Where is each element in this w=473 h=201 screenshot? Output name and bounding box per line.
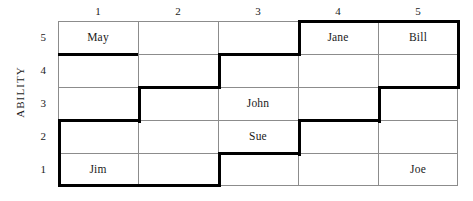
- column-header-4: 4: [298, 5, 378, 17]
- cell-r5-c1: May: [58, 21, 138, 54]
- cell-r2-c3: Sue: [218, 120, 298, 153]
- row-header-5: 5: [28, 21, 46, 54]
- row-header-1: 1: [28, 153, 46, 186]
- row-header-2: 2: [28, 120, 46, 153]
- grid-plot-area: May Jane Bill John Sue Jim Joe: [58, 21, 458, 186]
- boundary-under-r5c3: [218, 53, 301, 56]
- row-header-3: 3: [28, 87, 46, 120]
- cell-r5-c5: Bill: [378, 21, 458, 54]
- cell-r3-c3: John: [218, 87, 298, 120]
- column-header-2: 2: [138, 5, 218, 17]
- cell-r1-c5: Joe: [378, 153, 458, 186]
- boundary-under-r4c5: [378, 86, 460, 89]
- column-header-5: 5: [378, 5, 458, 17]
- boundary-v-col23-row4: [218, 53, 221, 87]
- boundary-v-col34-row2: [298, 119, 301, 156]
- cell-r1-c1: Jim: [58, 153, 138, 186]
- boundary-under-r4c23: [138, 86, 221, 89]
- cell-r5-c4: Jane: [298, 21, 378, 54]
- row-header-4: 4: [28, 54, 46, 87]
- boundary-v-col45-row3: [378, 86, 381, 123]
- boundary-v-col23-row1: [218, 152, 221, 187]
- column-header-1: 1: [58, 5, 138, 17]
- boundary-under-r3c1: [58, 119, 141, 122]
- boundary-under-r3c4: [298, 119, 381, 122]
- column-header-3: 3: [218, 5, 298, 17]
- boundary-v-col12-row3: [138, 86, 141, 123]
- y-axis-title: ABILITY: [14, 32, 26, 152]
- ability-grid-figure: ABILITY 1 2 3 4 5 5 4 3 2 1: [0, 0, 473, 201]
